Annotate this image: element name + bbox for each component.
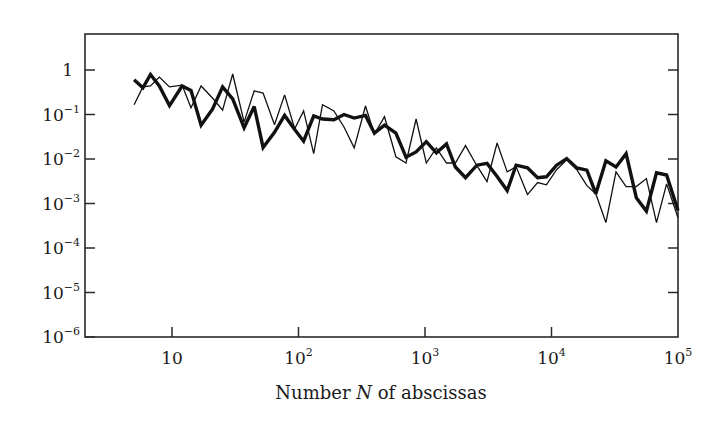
x-tick-label: 103: [411, 346, 440, 368]
y-tick-label: 10−5: [42, 281, 80, 303]
y-tick-label: 10−6: [42, 325, 80, 347]
y-tick-label: 1: [62, 60, 73, 80]
x-tick-label: 104: [537, 346, 566, 368]
y-tick-label: 10−2: [42, 147, 80, 169]
series-line-thick: [134, 75, 678, 212]
x-axis-title: Number N of abscissas: [275, 382, 486, 403]
x-tick-label: 102: [284, 346, 313, 368]
x-tick-label: 105: [664, 346, 693, 368]
y-tick-label: 10−4: [42, 236, 80, 258]
log-log-chart: 110−110−210−310−410−510−6 10102103104105…: [0, 0, 712, 425]
y-axis-ticks: 110−110−210−310−410−510−6: [42, 60, 678, 347]
plot-border: [85, 34, 678, 337]
series-line-thin: [134, 74, 678, 223]
plot-frame: [85, 34, 678, 337]
y-tick-label: 10−3: [42, 192, 80, 214]
data-series: [134, 74, 678, 223]
y-tick-label: 10−1: [42, 103, 80, 125]
x-axis-ticks: 10102103104105: [161, 327, 692, 368]
x-tick-label: 10: [161, 348, 183, 368]
